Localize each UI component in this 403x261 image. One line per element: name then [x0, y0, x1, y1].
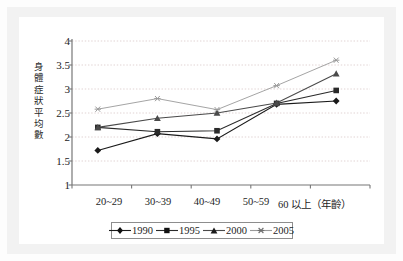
data-point-marker-diamond	[214, 136, 221, 143]
legend-marker-square-icon	[156, 225, 178, 236]
legend-item-1990[interactable]: 1990	[108, 225, 155, 236]
data-point-marker-triangle	[333, 70, 340, 76]
legend-label-2000: 2000	[226, 225, 247, 236]
legend-item-2000[interactable]: 2000	[202, 225, 249, 236]
legend-item-1995[interactable]: 1995	[155, 225, 202, 236]
series-line-2000	[98, 74, 336, 128]
legend-item-2005[interactable]: 2005	[249, 225, 296, 236]
data-point-marker-asterisk	[333, 58, 339, 63]
data-point-marker-asterisk	[154, 96, 160, 101]
series-line-1990	[98, 101, 336, 150]
legend-marker-asterisk-icon	[250, 225, 272, 236]
legend-marker-diamond-icon	[109, 225, 131, 236]
legend-label-1990: 1990	[132, 225, 153, 236]
data-point-marker-asterisk	[95, 107, 101, 112]
data-point-marker-square	[214, 128, 220, 134]
legend-label-2005: 2005	[273, 225, 294, 236]
legend-marker-triangle-icon	[203, 225, 225, 236]
data-point-marker-square	[155, 129, 161, 135]
chart-legend: 1990 1995 2000	[111, 222, 293, 239]
chart-page: 身體症狀平均數 4 3.5 3 2.5 2 1.5 1 20~29 30~39 …	[0, 0, 403, 261]
data-point-marker-asterisk	[273, 83, 279, 88]
legend-label-1995: 1995	[179, 225, 200, 236]
series-line-2005	[98, 60, 336, 109]
data-point-marker-diamond	[94, 147, 101, 154]
data-point-marker-diamond	[333, 98, 340, 105]
data-point-marker-square	[333, 88, 339, 94]
